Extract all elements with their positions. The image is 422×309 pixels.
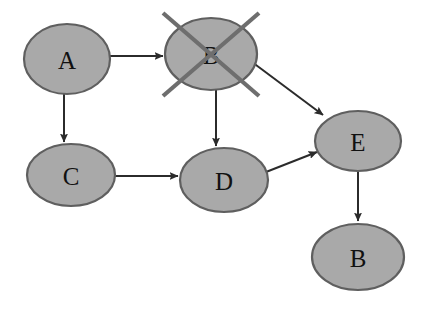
node-e[interactable]: E [315,111,401,171]
edge-d-to-e [266,152,317,172]
node-c[interactable]: C [27,144,115,206]
node-d[interactable]: D [180,148,268,212]
node-b-duplicate[interactable]: B [312,224,404,290]
node-b2-label: B [350,245,367,272]
node-a-label: A [58,47,76,74]
node-d-label: D [215,168,233,195]
node-e-label: E [350,129,365,156]
node-a[interactable]: A [24,24,110,94]
node-c-label: C [63,163,80,190]
edge-b-to-e [252,62,323,115]
diagram-canvas: A B C D E B [0,0,422,309]
graph-svg: A B C D E B [0,0,422,309]
